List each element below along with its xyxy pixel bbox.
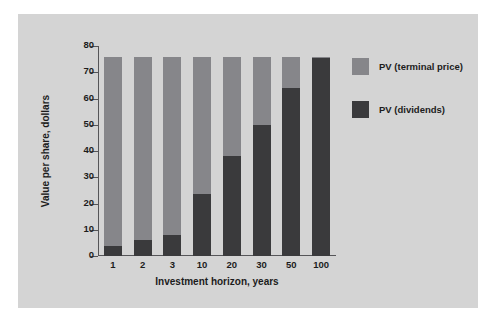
x-axis-tick-label: 3 — [163, 259, 181, 270]
bar-segment-dividends[interactable] — [223, 156, 241, 256]
x-axis-tick-label: 2 — [134, 259, 152, 270]
bar-segment-dividends[interactable] — [282, 88, 300, 256]
bar-segment-dividends[interactable] — [312, 58, 330, 256]
bar-segment-dividends[interactable] — [134, 240, 152, 256]
plot-area: 01020304050607080 — [98, 46, 336, 256]
bar-group[interactable] — [223, 46, 241, 256]
chart-legend: PV (terminal price)PV (dividends) — [352, 58, 463, 144]
bar-group[interactable] — [104, 46, 122, 256]
y-axis-tick-label: 0 — [89, 249, 94, 260]
bar-group[interactable] — [193, 46, 211, 256]
y-axis-title: Value per share, dollars — [40, 46, 54, 256]
bar-group[interactable] — [312, 46, 330, 256]
y-axis-tick-label: 70 — [83, 65, 94, 76]
legend-item-label: PV (terminal price) — [379, 61, 463, 72]
bar-segment-terminal-price[interactable] — [163, 57, 181, 236]
chart-figure: Value per share, dollars 010203040506070… — [18, 14, 478, 308]
bar-segment-dividends[interactable] — [193, 194, 211, 256]
bar-group[interactable] — [282, 46, 300, 256]
bar-segment-terminal-price[interactable] — [104, 57, 122, 246]
x-axis-tick-label: 50 — [282, 259, 300, 270]
bar-group[interactable] — [134, 46, 152, 256]
legend-color-swatch-icon — [352, 101, 369, 118]
y-axis-tick-label: 30 — [83, 170, 94, 181]
y-axis-tick-label: 60 — [83, 92, 94, 103]
x-axis-tick-label: 10 — [193, 259, 211, 270]
x-axis-title: Investment horizon, years — [98, 276, 336, 287]
y-axis-tick-label: 80 — [83, 39, 94, 50]
bar-segment-terminal-price[interactable] — [253, 57, 271, 125]
bar-segment-terminal-price[interactable] — [193, 57, 211, 195]
y-axis-tick-label: 40 — [83, 144, 94, 155]
legend-item-label: PV (dividends) — [379, 104, 445, 115]
bar-segment-terminal-price[interactable] — [134, 57, 152, 241]
y-axis-tick-label: 50 — [83, 118, 94, 129]
bar-segment-terminal-price[interactable] — [282, 57, 300, 89]
bar-segment-dividends[interactable] — [163, 235, 181, 256]
x-axis-tick-labels: 12310203050100 — [98, 259, 336, 270]
bar-group[interactable] — [163, 46, 181, 256]
legend-color-swatch-icon — [352, 58, 369, 75]
x-axis-tick-label: 100 — [312, 259, 330, 270]
bar-segment-dividends[interactable] — [253, 125, 271, 256]
legend-item[interactable]: PV (terminal price) — [352, 58, 463, 75]
bar-series-container — [98, 46, 336, 256]
x-axis-tick-label: 1 — [104, 259, 122, 270]
bar-segment-dividends[interactable] — [104, 246, 122, 257]
y-axis-tick-label: 10 — [83, 223, 94, 234]
legend-item[interactable]: PV (dividends) — [352, 101, 463, 118]
x-axis-tick-label: 30 — [253, 259, 271, 270]
x-axis-tick-label: 20 — [223, 259, 241, 270]
bar-group[interactable] — [253, 46, 271, 256]
y-axis-tick-label: 20 — [83, 197, 94, 208]
bar-segment-terminal-price[interactable] — [223, 57, 241, 157]
